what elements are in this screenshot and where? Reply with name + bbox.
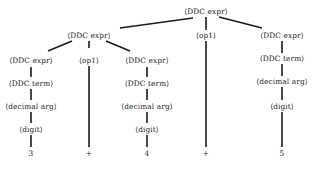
tree-node-label: ⟨decimal arg⟩ [5, 103, 56, 110]
tree-node-label: ⟨digit⟩ [19, 126, 43, 133]
tree-edge [48, 41, 72, 51]
tree-leaf-token: 3 [29, 150, 34, 157]
tree-leaf-token: + [203, 150, 209, 157]
tree-node-label: ⟨DDC term⟩ [260, 55, 305, 62]
tree-node-label: ⟨DDC term⟩ [9, 80, 54, 87]
tree-leaf-token: + [86, 150, 92, 157]
tree-leaf-token: 5 [280, 150, 285, 157]
tree-node-label: ⟨DDC term⟩ [125, 80, 170, 87]
parse-tree-diagram: ⟨DDC expr⟩⟨DDC expr⟩⟨op1⟩⟨DDC expr⟩⟨DDC … [0, 0, 314, 169]
tree-edge [106, 41, 130, 51]
tree-node-label: ⟨decimal arg⟩ [256, 78, 307, 85]
tree-node-label: ⟨digit⟩ [270, 103, 294, 110]
tree-edge [219, 17, 262, 28]
tree-node-label: ⟨DDC expr⟩ [125, 57, 168, 64]
tree-node-label: ⟨decimal arg⟩ [121, 103, 172, 110]
tree-node-label: ⟨DDC expr⟩ [260, 32, 303, 39]
tree-node-label: ⟨op1⟩ [196, 32, 216, 39]
tree-leaf-token: 4 [145, 150, 150, 157]
tree-edge [120, 18, 193, 28]
tree-node-label: ⟨digit⟩ [135, 126, 159, 133]
tree-node-label: ⟨DDC expr⟩ [184, 8, 227, 15]
tree-node-label: ⟨op1⟩ [79, 57, 99, 64]
tree-node-label: ⟨DDC expr⟩ [67, 32, 110, 39]
tree-node-label: ⟨DDC expr⟩ [9, 57, 52, 64]
